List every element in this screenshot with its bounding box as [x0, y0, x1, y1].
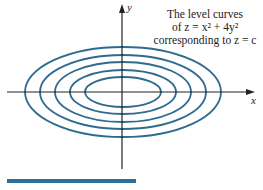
x-axis-label: x — [251, 94, 256, 106]
caption-line-1: The level curves — [150, 8, 260, 21]
y-axis-label: y — [127, 1, 132, 13]
y-axis-arrow-icon — [119, 4, 125, 13]
caption-line-2: of z = x² + 4y² — [150, 21, 260, 34]
caption-line-3: corresponding to z = c — [150, 34, 260, 47]
figure-caption: The level curves of z = x² + 4y² corresp… — [150, 8, 260, 47]
decorative-bar — [7, 179, 136, 183]
